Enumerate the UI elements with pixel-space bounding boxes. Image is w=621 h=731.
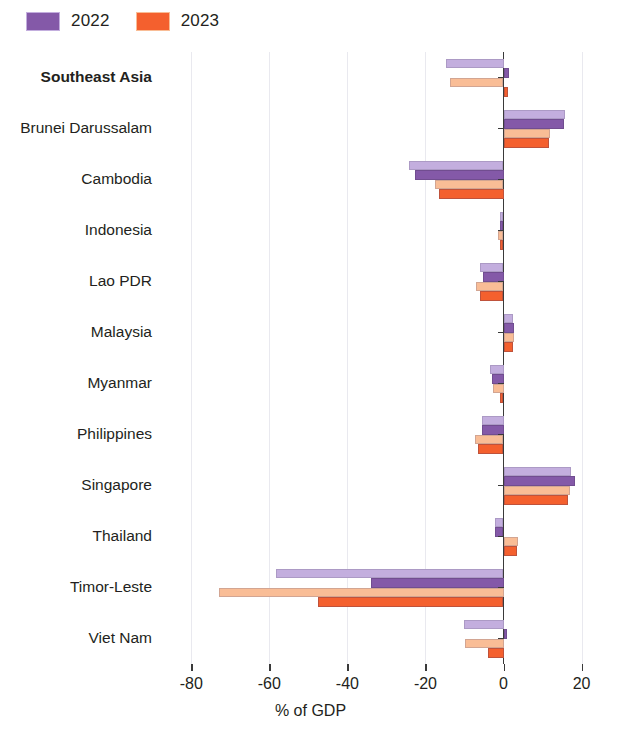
bar-2023-dark	[478, 444, 504, 454]
bar-2023-light	[465, 639, 503, 649]
bar-2023-dark	[318, 597, 503, 607]
category-label-malaysia: Malaysia	[91, 323, 152, 341]
chart-row: Southeast Asia	[160, 52, 605, 103]
x-tick--20	[425, 664, 426, 671]
bar-2023-light	[504, 537, 518, 547]
bar-2022-dark	[504, 323, 514, 333]
category-label-lao-pdr: Lao PDR	[89, 272, 152, 290]
x-tick--40	[347, 664, 348, 671]
bar-2023-light	[435, 180, 504, 190]
bar-2022-light	[409, 161, 503, 171]
chart-row: Timor-Leste	[160, 562, 605, 613]
y-tick	[498, 179, 504, 180]
category-label-viet-nam: Viet Nam	[89, 629, 152, 647]
y-tick	[498, 281, 504, 282]
bar-2022-light	[464, 620, 504, 630]
bar-2023-dark	[439, 189, 503, 199]
y-tick	[498, 77, 504, 78]
y-tick	[498, 587, 504, 588]
bar-2023-light	[498, 231, 503, 241]
bar-2022-light	[504, 314, 513, 324]
bar-2023-light	[475, 435, 503, 445]
chart-row: Indonesia	[160, 205, 605, 256]
bar-2022-dark	[371, 578, 504, 588]
bar-2022-light	[482, 416, 504, 426]
plot-region: Southeast AsiaBrunei DarussalamCambodiaI…	[0, 52, 621, 672]
legend-swatch-2022	[26, 12, 60, 31]
bar-2022-light	[276, 569, 504, 579]
category-label-indonesia: Indonesia	[85, 221, 152, 239]
bar-2023-light	[219, 588, 504, 598]
bar-2022-light	[480, 263, 503, 273]
x-tick-label--40: -40	[336, 675, 359, 693]
category-label-southeast-asia: Southeast Asia	[41, 68, 152, 86]
chart-row: Malaysia	[160, 307, 605, 358]
x-tick-label--20: -20	[414, 675, 437, 693]
chart-row: Viet Nam	[160, 613, 605, 664]
bar-2022-dark	[504, 119, 565, 129]
bar-2022-dark	[415, 170, 503, 180]
chart-row: Brunei Darussalam	[160, 103, 605, 154]
category-label-singapore: Singapore	[81, 476, 152, 494]
bar-2022-light	[495, 518, 504, 528]
category-label-philippines: Philippines	[77, 425, 152, 443]
bar-2022-light	[490, 365, 503, 375]
x-axis-title: % of GDP	[0, 702, 621, 720]
bar-2023-light	[504, 486, 570, 496]
category-label-thailand: Thailand	[93, 527, 152, 545]
bar-2023-dark	[500, 240, 504, 250]
x-tick-label-20: 20	[573, 675, 591, 693]
bar-2023-dark	[504, 342, 513, 352]
legend-label-2022: 2022	[71, 11, 110, 31]
x-tick-label--80: -80	[180, 675, 203, 693]
bar-2023-dark	[504, 87, 509, 97]
category-label-brunei-darussalam: Brunei Darussalam	[20, 119, 152, 137]
bar-2022-light	[446, 59, 504, 69]
x-tick-20	[582, 664, 583, 671]
bar-2023-dark	[504, 495, 569, 505]
legend-label-2023: 2023	[181, 11, 220, 31]
chart-row: Thailand	[160, 511, 605, 562]
bar-2023-light	[504, 333, 514, 343]
chart-row: Philippines	[160, 409, 605, 460]
bar-2022-dark	[504, 629, 507, 639]
bar-2023-dark	[488, 648, 504, 658]
legend-2022[interactable]: 2022	[26, 11, 110, 31]
bar-2022-light	[500, 212, 504, 222]
bar-2022-light	[504, 110, 566, 120]
x-tick--60	[269, 664, 270, 671]
y-tick	[498, 536, 504, 537]
bar-2023-dark	[504, 546, 517, 556]
x-tick-label--60: -60	[258, 675, 281, 693]
legend-swatch-2023	[136, 12, 170, 31]
category-label-myanmar: Myanmar	[87, 374, 152, 392]
bar-2023-dark	[480, 291, 503, 301]
bar-2023-dark	[500, 393, 503, 403]
bar-2023-light	[450, 78, 504, 88]
bar-2023-light	[504, 129, 550, 139]
chart-row: Lao PDR	[160, 256, 605, 307]
x-tick--80	[191, 664, 192, 671]
y-tick	[498, 485, 504, 486]
y-tick	[498, 638, 504, 639]
bar-2023-light	[493, 384, 503, 394]
bar-2022-dark	[504, 476, 575, 486]
x-tick-0	[504, 664, 505, 671]
bar-2022-light	[504, 467, 571, 477]
category-label-timor-leste: Timor-Leste	[70, 578, 152, 596]
bar-2023-dark	[504, 138, 549, 148]
chart-row: Cambodia	[160, 154, 605, 205]
bar-2023-light	[476, 282, 503, 292]
chart-row: Myanmar	[160, 358, 605, 409]
gdp-bar-chart: 20222023 Southeast AsiaBrunei Darussalam…	[0, 0, 621, 731]
legend-2023[interactable]: 2023	[136, 11, 220, 31]
chart-legend: 20222023	[26, 8, 219, 34]
category-label-cambodia: Cambodia	[81, 170, 152, 188]
y-tick	[498, 383, 504, 384]
y-tick	[498, 434, 504, 435]
bar-2022-dark	[504, 68, 509, 78]
plot-area: Southeast AsiaBrunei DarussalamCambodiaI…	[160, 52, 605, 664]
y-tick	[498, 230, 504, 231]
chart-row: Singapore	[160, 460, 605, 511]
y-tick	[498, 332, 504, 333]
